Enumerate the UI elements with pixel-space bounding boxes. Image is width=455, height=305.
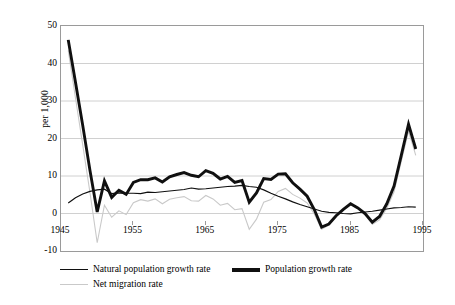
legend-swatch-icon [232, 268, 260, 272]
plot-area [60, 25, 424, 252]
x-tick-label: 1945 [40, 225, 80, 235]
legend-swatch-icon [60, 284, 88, 285]
legend-label: Net migration rate [93, 279, 163, 290]
legend-item[interactable]: Natural population growth rate [60, 264, 210, 275]
chart-legend: Natural population growth ratePopulation… [60, 264, 440, 300]
chart-figure: per 1,000 50403020100-10 194519551965197… [0, 0, 455, 305]
x-axis-tick-labels: 194519551965197519851995 [0, 225, 455, 239]
x-tick-label: 1955 [112, 225, 152, 235]
x-tick-mark [422, 221, 423, 225]
x-tick-mark [132, 221, 133, 225]
x-tick-mark [60, 221, 61, 225]
x-tick-mark [350, 221, 351, 225]
y-tick-label: 30 [31, 95, 57, 105]
x-tick-label: 1965 [185, 225, 225, 235]
legend-label: Natural population growth rate [93, 264, 210, 275]
x-tick-mark [277, 221, 278, 225]
legend-item[interactable]: Population growth rate [232, 264, 352, 275]
y-tick-label: 0 [31, 208, 57, 218]
x-tick-label: 1975 [257, 225, 297, 235]
y-tick-label: 10 [31, 170, 57, 180]
x-tick-label: 1985 [330, 225, 370, 235]
series-line [68, 40, 416, 227]
legend-label: Population growth rate [265, 264, 352, 275]
y-tick-label: 20 [31, 133, 57, 143]
x-tick-label: 1995 [402, 225, 442, 235]
y-axis-tick-labels: 50403020100-10 [26, 0, 57, 305]
y-tick-label: 50 [31, 20, 57, 30]
legend-swatch-icon [60, 269, 88, 270]
legend-item[interactable]: Net migration rate [60, 279, 163, 290]
y-tick-label: -10 [31, 245, 57, 255]
chart-canvas [61, 26, 423, 251]
y-tick-label: 40 [31, 58, 57, 68]
x-tick-mark [205, 221, 206, 225]
